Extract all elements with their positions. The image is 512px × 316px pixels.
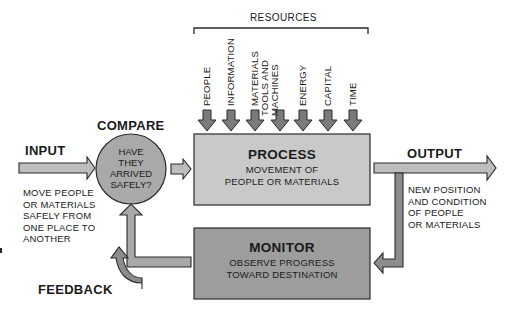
resource-label-people: PEOPLE bbox=[202, 67, 212, 106]
down-arrow-icon bbox=[198, 110, 216, 131]
input-arrow-icon bbox=[19, 157, 95, 179]
question-line: HAVE bbox=[106, 146, 156, 157]
monitor-description-line: TOWARD DESTINATION bbox=[194, 269, 370, 281]
down-arrow-icon bbox=[344, 110, 362, 131]
process-description-line: MOVEMENT OF bbox=[194, 164, 370, 176]
compare-label: COMPARE bbox=[97, 118, 165, 133]
question-line: SAFELY? bbox=[106, 179, 156, 190]
output-to-monitor-arrow-icon bbox=[374, 173, 403, 273]
resource-arrows bbox=[198, 110, 362, 131]
resource-label-energy: ENERGY bbox=[298, 65, 308, 106]
question-line: ARRIVED bbox=[106, 168, 156, 179]
description-line: NEW POSITION bbox=[408, 184, 487, 196]
description-line: OR MATERIALS bbox=[408, 219, 487, 231]
description-line: OR MATERIALS bbox=[23, 199, 95, 211]
system-diagram: RESOURCES PEOPLE INFORMATION MATERIALS T… bbox=[0, 0, 512, 316]
right-arrow-icon bbox=[171, 159, 191, 179]
down-arrow-icon bbox=[222, 110, 240, 131]
resources-bracket bbox=[194, 28, 368, 34]
output-label: OUTPUT bbox=[407, 146, 462, 161]
input-description: MOVE PEOPLE OR MATERIALS SAFELY FROM ONE… bbox=[23, 187, 95, 245]
resource-text: PEOPLE bbox=[201, 67, 212, 106]
resource-label-tools-and-machines: TOOLS AND MACHINES bbox=[260, 60, 280, 116]
down-arrow-icon bbox=[294, 110, 312, 131]
edge-mark bbox=[0, 248, 2, 253]
question-line: THEY bbox=[106, 157, 156, 168]
resource-label-capital: CAPITAL bbox=[323, 66, 333, 106]
monitor-box: MONITOR OBSERVE PROGRESS TOWARD DESTINAT… bbox=[194, 240, 370, 280]
resource-text: INFORMATION bbox=[225, 38, 236, 106]
resource-label-time: TIME bbox=[348, 83, 358, 107]
description-line: SAFELY FROM bbox=[23, 210, 95, 222]
monitor-title: MONITOR bbox=[194, 240, 370, 255]
process-description-line: PEOPLE OR MATERIALS bbox=[194, 176, 370, 188]
resource-text: TIME bbox=[347, 83, 358, 107]
description-line: AND CONDITION bbox=[408, 196, 487, 208]
process-title: PROCESS bbox=[194, 147, 370, 162]
down-arrow-icon bbox=[319, 110, 337, 131]
monitor-to-compare-arrow-icon bbox=[120, 204, 191, 267]
compare-question: HAVE THEY ARRIVED SAFELY? bbox=[106, 146, 156, 190]
monitor-description-line: OBSERVE PROGRESS bbox=[194, 257, 370, 269]
description-line: ONE PLACE TO bbox=[23, 222, 95, 234]
description-line: OF PEOPLE bbox=[408, 207, 487, 219]
input-label: INPUT bbox=[25, 143, 66, 158]
resource-text: MACHINES bbox=[270, 60, 280, 116]
resources-heading: RESOURCES bbox=[250, 12, 317, 23]
process-box: PROCESS MOVEMENT OF PEOPLE OR MATERIALS bbox=[194, 147, 370, 187]
resource-text: CAPITAL bbox=[322, 66, 333, 106]
resource-text: ENERGY bbox=[297, 65, 308, 106]
description-line: MOVE PEOPLE bbox=[23, 187, 95, 199]
resource-label-information: INFORMATION bbox=[226, 38, 236, 106]
output-description: NEW POSITION AND CONDITION OF PEOPLE OR … bbox=[408, 184, 487, 230]
feedback-label: FEEDBACK bbox=[38, 282, 113, 297]
description-line: ANOTHER bbox=[23, 233, 95, 245]
